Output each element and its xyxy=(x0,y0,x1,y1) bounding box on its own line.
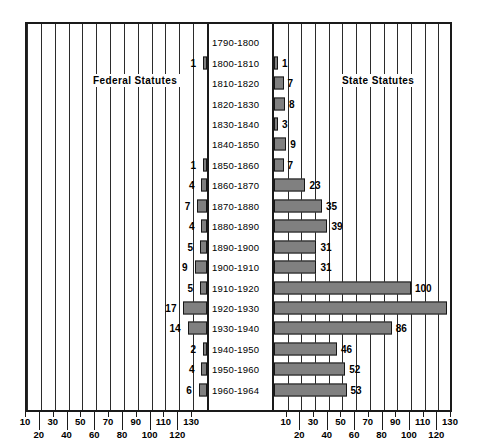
axis-tick-label: 110 xyxy=(415,416,430,427)
axis-tick-label: 40 xyxy=(61,429,72,440)
bar-federal xyxy=(199,383,207,396)
axis-tick-label: 20 xyxy=(294,429,305,440)
value-label-federal: 2 xyxy=(190,343,196,354)
value-label-federal: 5 xyxy=(188,282,194,293)
value-label-federal: 9 xyxy=(182,262,188,273)
value-label-state: 3 xyxy=(282,118,288,129)
value-label-state: 31 xyxy=(320,262,331,273)
decade-label: 1900-1910 xyxy=(212,262,259,273)
axis-tick-label: 120 xyxy=(169,429,185,440)
plot-frame: 1790-1800001800-1810111810-1820071820-18… xyxy=(25,22,452,412)
axis-tick-mark xyxy=(368,412,369,417)
bar-state xyxy=(274,322,392,335)
bar-state xyxy=(274,342,337,355)
chart-row: 1880-1890439 xyxy=(27,216,450,236)
panel-heading-state: State Statutes xyxy=(338,74,418,87)
axis-tick-mark xyxy=(409,412,410,430)
bar-state xyxy=(274,220,327,233)
value-label-state: 53 xyxy=(351,384,362,395)
axis-tick-mark xyxy=(53,412,54,417)
bar-federal xyxy=(201,179,207,192)
bar-state xyxy=(274,199,322,212)
axis-tick-mark xyxy=(423,412,424,417)
value-label-federal: 7 xyxy=(185,200,191,211)
axis-tick-label: 80 xyxy=(117,429,128,440)
decade-label: 1790-1800 xyxy=(212,37,259,48)
axis-tick-mark xyxy=(382,412,383,430)
decade-label: 1930-1940 xyxy=(212,323,259,334)
bar-federal xyxy=(195,261,207,274)
value-label-federal: 4 xyxy=(189,221,195,232)
value-label-state: 9 xyxy=(290,139,296,150)
bar-state xyxy=(274,97,285,110)
decade-label: 1860-1870 xyxy=(212,180,259,191)
axis-tick-label: 70 xyxy=(363,416,374,427)
decade-label: 1830-1840 xyxy=(212,118,259,129)
axis-tick-label: 100 xyxy=(401,429,417,440)
bar-state xyxy=(274,261,316,274)
axis-tick-label: 30 xyxy=(308,416,319,427)
axis-tick-label: 40 xyxy=(321,429,332,440)
value-label-federal: 14 xyxy=(170,323,181,334)
bar-state xyxy=(274,179,305,192)
chart-row: 1930-19401486 xyxy=(27,318,450,338)
chart-row: 1830-184003 xyxy=(27,114,450,134)
axis-tick-label: 90 xyxy=(130,416,141,427)
chart-row: 1950-1960452 xyxy=(27,359,450,379)
axis-tick-mark xyxy=(340,412,341,417)
axis-tick-label: 10 xyxy=(280,416,291,427)
bar-federal xyxy=(203,342,207,355)
decade-label: 1870-1880 xyxy=(212,200,259,211)
bar-state xyxy=(274,281,411,294)
bar-federal xyxy=(201,220,207,233)
axis-tick-label: 130 xyxy=(183,416,199,427)
chart-row: 1910-19205100 xyxy=(27,277,450,297)
axis-tick-mark xyxy=(354,412,355,430)
axis-tick-label: 30 xyxy=(47,416,58,427)
chart-row: 1900-1910931 xyxy=(27,257,450,277)
axis-tick-mark xyxy=(67,412,68,430)
axis-tick-mark xyxy=(150,412,151,430)
axis-tick-mark xyxy=(313,412,314,417)
axis-tick-mark xyxy=(299,412,300,430)
chart-row: 1800-181011 xyxy=(27,52,450,72)
axis-tick-label: 60 xyxy=(89,429,100,440)
value-label-state: 1 xyxy=(282,57,288,68)
axis-tick-mark xyxy=(136,412,137,417)
axis-tick-mark xyxy=(191,412,192,417)
bar-state xyxy=(274,240,316,253)
statutes-pyramid-chart: 1790-1800001800-1810111810-1820071820-18… xyxy=(0,0,480,447)
bar-state xyxy=(274,383,347,396)
value-label-state: 7 xyxy=(288,78,294,89)
value-label-state: 52 xyxy=(349,364,360,375)
decade-label: 1840-1850 xyxy=(212,139,259,150)
bar-federal xyxy=(201,363,207,376)
value-label-state: 31 xyxy=(320,241,331,252)
bar-federal xyxy=(200,240,207,253)
axis-tick-mark xyxy=(108,412,109,417)
axis-tick-label: 20 xyxy=(34,429,45,440)
bar-federal xyxy=(197,199,207,212)
axis-tick-label: 50 xyxy=(75,416,86,427)
bar-state xyxy=(274,77,284,90)
axis-tick-label: 80 xyxy=(376,429,387,440)
value-label-federal: 17 xyxy=(165,302,176,313)
axis-tick-mark xyxy=(94,412,95,430)
bar-state xyxy=(274,363,345,376)
decade-label: 1960-1964 xyxy=(212,384,259,395)
bar-federal xyxy=(200,281,207,294)
axis-tick-label: 100 xyxy=(142,429,158,440)
chart-row: 1890-1900531 xyxy=(27,236,450,256)
value-label-state: 23 xyxy=(309,180,320,191)
axis-tick-label: 10 xyxy=(20,416,31,427)
value-label-state: 86 xyxy=(396,323,407,334)
value-label-state: 8 xyxy=(289,98,295,109)
axis-tick-mark xyxy=(80,412,81,417)
axis-tick-mark xyxy=(450,412,451,417)
value-label-federal: 6 xyxy=(186,384,192,395)
axis-tick-label: 110 xyxy=(156,416,171,427)
decade-label: 1910-1920 xyxy=(212,282,259,293)
bar-federal xyxy=(203,56,207,69)
decade-label: 1940-1950 xyxy=(212,343,259,354)
axis-tick-mark xyxy=(286,412,287,417)
